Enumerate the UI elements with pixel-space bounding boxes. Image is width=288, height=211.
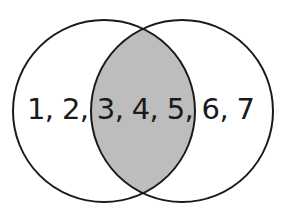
elements-label: 1, 2, 3, 4, 5, 6, 7: [27, 92, 255, 126]
venn-diagram: 1, 2, 3, 4, 5, 6, 7: [0, 0, 288, 211]
